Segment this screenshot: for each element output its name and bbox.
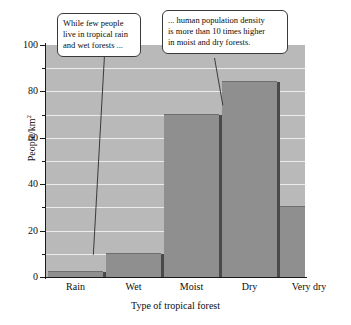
y-tick-60 xyxy=(40,138,45,139)
callout-left-line-1: While few people xyxy=(63,18,135,29)
y-tick-100 xyxy=(40,45,45,46)
y-tick-minor-70 xyxy=(42,115,45,116)
y-tick-0 xyxy=(40,277,45,278)
gridline-90 xyxy=(46,68,305,69)
y-axis-title-text: People/km xyxy=(26,119,37,162)
y-tick-40 xyxy=(40,184,45,185)
callout-left-line-3: and wet forests ... xyxy=(63,40,135,51)
plot-area xyxy=(46,45,305,277)
callout-right-line-2: is more than 10 times higher xyxy=(168,26,282,37)
y-tick-minor-30 xyxy=(42,207,45,208)
callout-right-line-1: ... human population density xyxy=(168,15,282,26)
x-tick-label-dry: Dry xyxy=(222,281,277,292)
x-tick-label-wet: Wet xyxy=(106,281,161,292)
y-tick-minor-10 xyxy=(42,254,45,255)
y-tick-label-0: 0 xyxy=(0,272,38,282)
x-tick-label-rain: Rain xyxy=(48,281,103,292)
bar-wet[interactable] xyxy=(106,253,161,277)
x-axis-title: Type of tropical forest xyxy=(0,300,351,311)
y-axis-title: People/km2 xyxy=(25,83,37,193)
callout-right[interactable]: ... human population density is more tha… xyxy=(162,10,288,54)
callout-left-line-2: live in tropical rain xyxy=(63,29,135,40)
y-tick-minor-50 xyxy=(42,161,45,162)
callout-left[interactable]: While few people live in tropical rain a… xyxy=(57,13,141,57)
bar-chart: 100 80 60 40 20 0 People/km2 Rain Wet Mo… xyxy=(0,0,351,325)
y-tick-label-20: 20 xyxy=(0,226,38,236)
y-tick-label-100: 100 xyxy=(0,40,38,50)
y-tick-minor-90 xyxy=(42,68,45,69)
y-tick-80 xyxy=(40,91,45,92)
y-axis-line xyxy=(45,43,46,279)
bar-very-dry[interactable] xyxy=(280,206,305,277)
bar-dry[interactable] xyxy=(222,81,277,277)
bar-moist[interactable] xyxy=(164,114,219,277)
y-tick-20 xyxy=(40,231,45,232)
callout-right-line-3: in moist and dry forests. xyxy=(168,37,282,48)
x-tick-label-moist: Moist xyxy=(164,281,219,292)
x-tick-label-very-dry: Very dry xyxy=(278,281,340,292)
y-axis-title-exponent: 2 xyxy=(25,115,33,119)
x-axis-line xyxy=(45,277,307,278)
